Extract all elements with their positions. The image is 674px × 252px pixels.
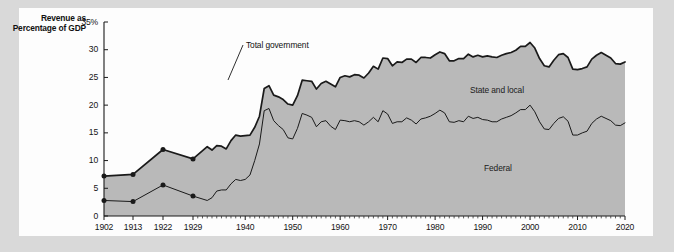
y-axis-tick-label: 25 <box>68 72 98 82</box>
x-axis-tick-label: 2020 <box>605 222 645 232</box>
total-government-marker <box>131 172 136 177</box>
x-axis-tick-label: 1940 <box>225 222 265 232</box>
y-axis-tick-label: 30 <box>68 44 98 54</box>
federal-marker <box>161 182 166 187</box>
y-axis-tick-label: 0 <box>68 211 98 221</box>
state-and-local-annotation: State and local <box>470 85 524 95</box>
federal-marker <box>131 199 136 204</box>
x-axis-tick-label: 1980 <box>415 222 455 232</box>
y-axis-tick-label: 20 <box>68 100 98 110</box>
y-axis-tick-label: 35% <box>68 17 98 27</box>
x-axis-tick-label: 2000 <box>510 222 550 232</box>
x-axis-tick-label: 1960 <box>320 222 360 232</box>
chart-plot <box>0 0 674 252</box>
total-government-leader-line <box>228 45 243 80</box>
total-government-annotation: Total government <box>246 40 309 50</box>
x-axis-tick-label: 2010 <box>558 222 598 232</box>
total-government-marker <box>191 156 196 161</box>
federal-marker <box>191 194 196 199</box>
y-axis-tick-label: 5 <box>68 183 98 193</box>
revenue-gdp-chart-figure: Revenue as Percentage of GDP 05101520253… <box>0 0 674 252</box>
x-axis-tick-label: 1950 <box>273 222 313 232</box>
x-axis-tick-label: 1929 <box>173 222 213 232</box>
x-axis-tick-label: 1990 <box>463 222 503 232</box>
total-government-marker <box>161 147 166 152</box>
federal-annotation: Federal <box>484 163 512 173</box>
y-axis-tick-label: 15 <box>68 127 98 137</box>
y-axis-tick-label: 10 <box>68 155 98 165</box>
x-axis-tick-label: 1970 <box>368 222 408 232</box>
